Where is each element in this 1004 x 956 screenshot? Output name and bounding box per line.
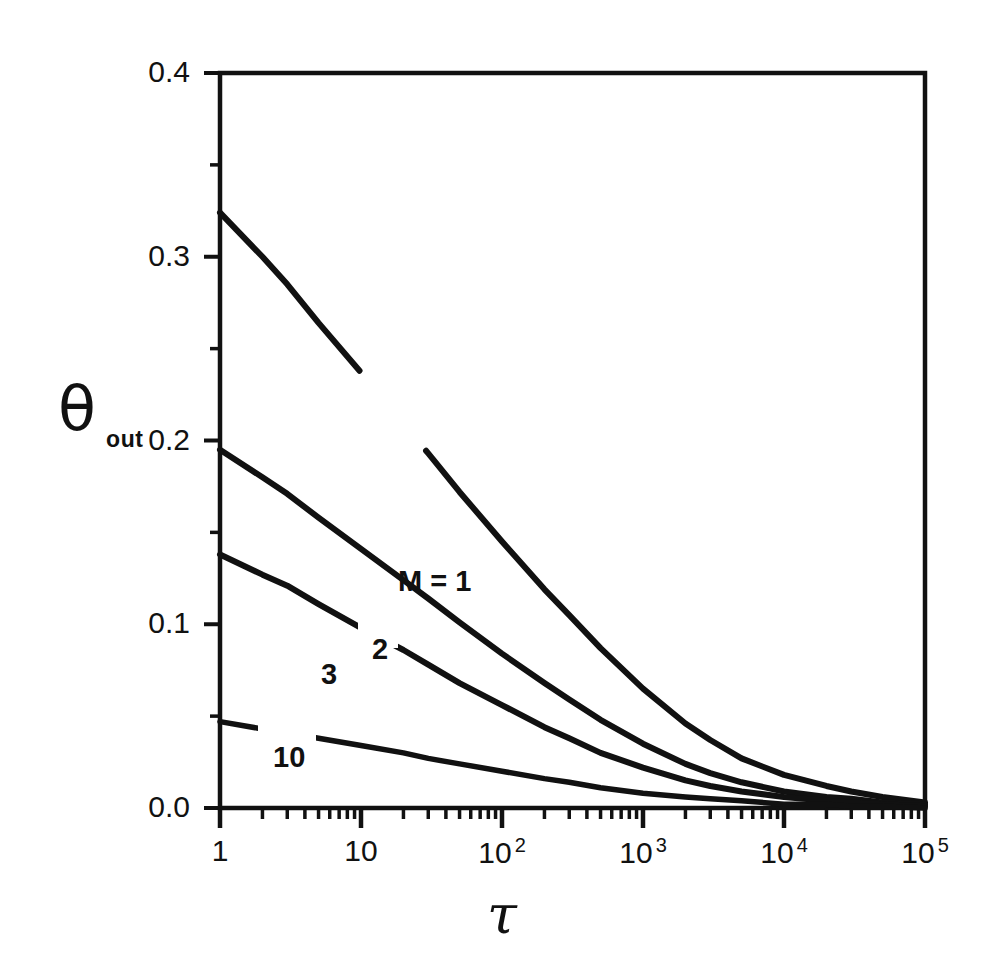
x-tick-exponent-3: 3 (656, 834, 667, 856)
y-tick-label-0.2: 0.2 (60, 423, 190, 457)
curve-label-10: 10 (273, 741, 305, 774)
x-tick-base-2: 10 (478, 836, 511, 869)
x-tick-base-0: 1 (212, 834, 229, 867)
y-tick-label-0.0: 0.0 (60, 790, 190, 824)
x-tick-label-1: 10 (291, 834, 431, 868)
x-tick-label-2: 102 (432, 834, 572, 870)
x-tick-base-3: 10 (619, 836, 652, 869)
curve-group-m-1 (220, 213, 925, 803)
curve-label-3: 3 (321, 658, 337, 691)
y-tick-label-0.1: 0.1 (60, 606, 190, 640)
curve-label-m-1: M = 1 (398, 565, 471, 598)
y-tick-label-0.4: 0.4 (60, 55, 190, 89)
curve-group-m-2 (220, 450, 925, 805)
curve-m-1 (220, 213, 925, 803)
x-tick-label-0: 1 (150, 834, 290, 868)
x-tick-exponent-5: 5 (938, 834, 949, 856)
x-tick-label-5: 105 (855, 834, 995, 870)
curve-m-2 (220, 450, 925, 805)
plot-frame (220, 73, 925, 808)
x-tick-base-4: 10 (760, 836, 793, 869)
x-tick-label-4: 104 (714, 834, 854, 870)
x-tick-label-3: 103 (573, 834, 713, 870)
y-tick-label-0.3: 0.3 (60, 239, 190, 273)
x-tick-exponent-2: 2 (515, 834, 526, 856)
curve-label-2: 2 (372, 633, 388, 666)
x-tick-exponent-4: 4 (797, 834, 808, 856)
x-tick-base-1: 10 (344, 834, 377, 867)
x-tick-base-5: 10 (901, 836, 934, 869)
